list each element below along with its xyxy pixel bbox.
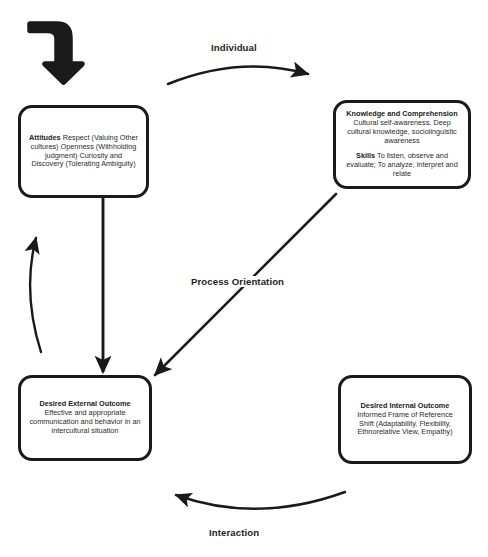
node-external-body: Effective and appropriate communication … — [29, 408, 140, 435]
node-external-text: Desired External OutcomeEffective and ap… — [21, 396, 149, 440]
entry-elbow-arrow — [30, 24, 82, 82]
node-attitudes[interactable]: Attitudes Respect (Valuing Other culture… — [18, 105, 149, 198]
node-knowledge-body: Cultural self-awareness. Deep cultural k… — [347, 118, 457, 145]
node-internal-heading: Desired Internal Outcome — [361, 401, 450, 410]
edge-label-interaction: Interaction — [209, 527, 259, 538]
node-internal-body: Informed Frame of Reference Shift (Adapt… — [357, 410, 453, 437]
node-internal-text: Desired Internal OutcomeInformed Frame o… — [341, 398, 469, 442]
node-skills-heading: Skills — [356, 151, 375, 160]
node-knowledge-comprehension[interactable]: Knowledge and ComprehensionCultural self… — [333, 100, 471, 189]
individual-arc-arrow — [168, 66, 308, 84]
node-desired-internal-outcome[interactable]: Desired Internal OutcomeInformed Frame o… — [338, 375, 472, 464]
edge-label-individual: Individual — [211, 42, 257, 53]
node-knowledge-text: Knowledge and ComprehensionCultural self… — [336, 106, 468, 183]
external-to-attitudes-arrow — [30, 238, 41, 352]
node-external-heading: Desired External Outcome — [39, 399, 130, 408]
node-attitudes-text: Attitudes Respect (Valuing Other culture… — [21, 130, 146, 174]
node-desired-external-outcome[interactable]: Desired External OutcomeEffective and ap… — [18, 375, 152, 461]
interaction-arc-arrow — [176, 492, 345, 509]
node-knowledge-heading: Knowledge and Comprehension — [346, 109, 458, 118]
edge-label-process-orientation: Process Orientation — [188, 276, 287, 287]
node-attitudes-heading: Attitudes — [29, 133, 61, 142]
